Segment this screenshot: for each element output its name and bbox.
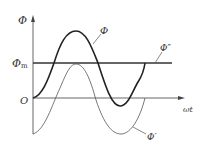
- x-axis-arrow-icon: [178, 96, 185, 100]
- origin-label: O: [20, 95, 28, 106]
- label-phi-prime: Φ′: [147, 132, 156, 142]
- label-phi-double-prime: Φ″: [160, 43, 171, 53]
- level-label-sub: m: [21, 62, 28, 70]
- label-phi: Φ: [100, 25, 108, 36]
- leader-phi-double-prime: [155, 52, 162, 63]
- y-axis-label: Φ: [18, 14, 27, 27]
- level-label: Φm: [12, 57, 28, 70]
- leader-phi-prime: [133, 127, 146, 134]
- x-axis-label: ωt: [183, 105, 194, 114]
- y-axis-arrow-icon: [31, 15, 35, 22]
- curve-phi: [33, 31, 145, 106]
- flux-diagram: Φ Φm O ωt Φ Φ″ Φ′: [0, 0, 199, 152]
